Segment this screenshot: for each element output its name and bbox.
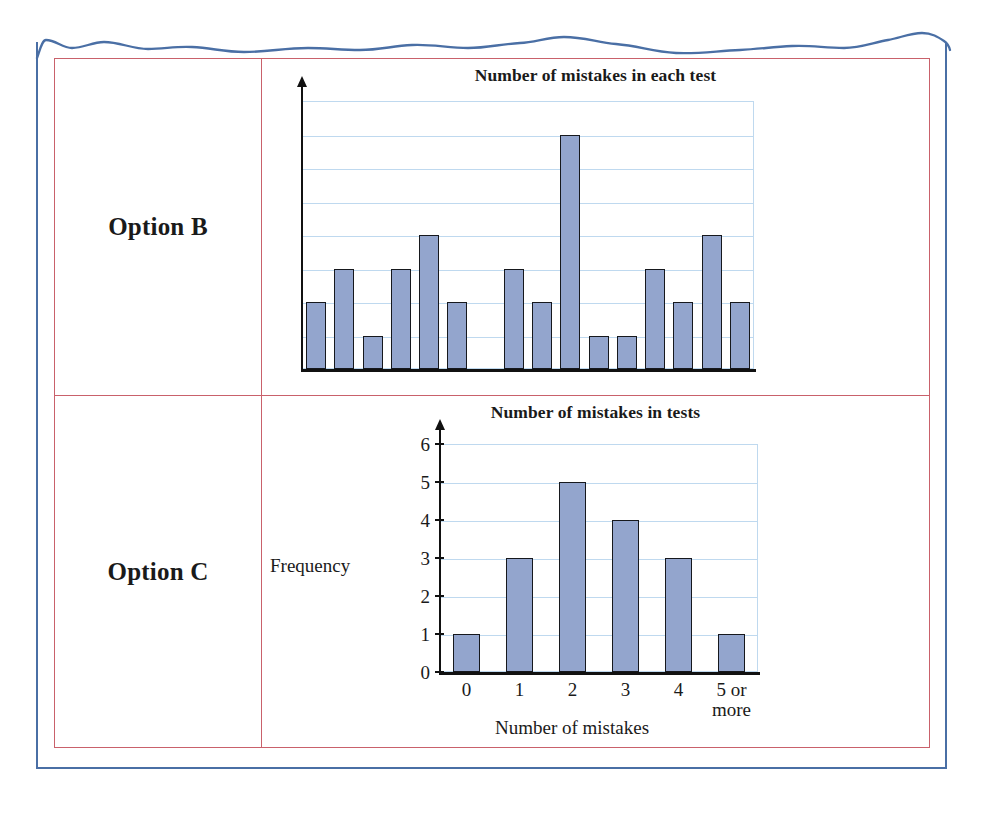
x-tick-label: 0 xyxy=(440,680,493,700)
options-table: Option B Number of mistakes in each test… xyxy=(54,58,930,748)
gridline xyxy=(302,136,753,137)
y-tick-label: 3 xyxy=(408,549,430,568)
bar xyxy=(532,302,552,369)
bar xyxy=(589,336,609,370)
gridline xyxy=(302,169,753,170)
x-axis xyxy=(439,672,760,675)
plot-area-option-c: 0123456012345 or more xyxy=(402,444,758,686)
gridline xyxy=(440,483,757,484)
y-tick-label: 6 xyxy=(408,435,430,454)
y-tick-label: 0 xyxy=(408,663,430,682)
y-tick-label: 5 xyxy=(408,473,430,492)
chart-cell-option-b: Number of mistakes in each test xyxy=(262,59,929,395)
option-label: Option C xyxy=(108,558,209,586)
plot-area-option-b xyxy=(288,101,754,383)
bar xyxy=(560,135,580,370)
chart-gridbox xyxy=(440,444,758,672)
x-tick-label: 2 xyxy=(546,680,599,700)
bar xyxy=(506,558,533,672)
x-tick-label: 3 xyxy=(599,680,652,700)
gridline xyxy=(440,559,757,560)
gridline xyxy=(440,635,757,636)
bar xyxy=(673,302,693,369)
gridline xyxy=(302,236,753,237)
y-tick-mark xyxy=(435,481,444,483)
x-axis xyxy=(301,369,756,372)
bar xyxy=(730,302,750,369)
bar xyxy=(334,269,354,370)
bar xyxy=(419,235,439,369)
chart-title-option-b: Number of mistakes in each test xyxy=(262,65,929,86)
bar xyxy=(391,269,411,370)
gridline xyxy=(440,597,757,598)
y-axis-arrow-icon xyxy=(297,76,307,87)
bar xyxy=(617,336,637,370)
bar xyxy=(612,520,639,672)
bar xyxy=(306,302,326,369)
table-row: Option B Number of mistakes in each test xyxy=(55,59,929,396)
y-tick-mark xyxy=(435,633,444,635)
y-tick-label: 1 xyxy=(408,625,430,644)
y-tick-mark xyxy=(435,595,444,597)
y-tick-mark xyxy=(435,671,444,673)
chart-title-option-c: Number of mistakes in tests xyxy=(262,402,929,423)
bar xyxy=(559,482,586,672)
bar xyxy=(718,634,745,672)
x-tick-label: 4 xyxy=(652,680,705,700)
gridline xyxy=(440,521,757,522)
bar xyxy=(447,302,467,369)
bar xyxy=(504,269,524,370)
y-tick-mark xyxy=(435,443,444,445)
bar xyxy=(665,558,692,672)
bar xyxy=(645,269,665,370)
x-axis-label-option-c: Number of mistakes xyxy=(412,718,732,737)
gridline xyxy=(302,203,753,204)
bar xyxy=(363,336,383,370)
y-axis xyxy=(439,428,441,674)
option-label: Option B xyxy=(108,213,208,241)
table-row: Option C Number of mistakes in tests 012… xyxy=(55,396,929,747)
y-tick-label: 2 xyxy=(408,587,430,606)
row-label-cell-option-c: Option C xyxy=(55,396,262,747)
chart-cell-option-c: Number of mistakes in tests 012345601234… xyxy=(262,396,929,747)
row-label-cell-option-b: Option B xyxy=(55,59,262,395)
gridline xyxy=(302,270,753,271)
x-tick-label: 5 or more xyxy=(705,680,758,720)
y-tick-mark xyxy=(435,557,444,559)
y-axis-arrow-icon xyxy=(435,419,445,430)
torn-page-frame: Option B Number of mistakes in each test… xyxy=(36,28,951,773)
y-axis-label-option-c: Frequency xyxy=(270,556,350,575)
x-tick-label: 1 xyxy=(493,680,546,700)
bar xyxy=(702,235,722,369)
y-tick-label: 4 xyxy=(408,511,430,530)
y-axis xyxy=(301,85,303,371)
y-tick-mark xyxy=(435,519,444,521)
bar xyxy=(453,634,480,672)
